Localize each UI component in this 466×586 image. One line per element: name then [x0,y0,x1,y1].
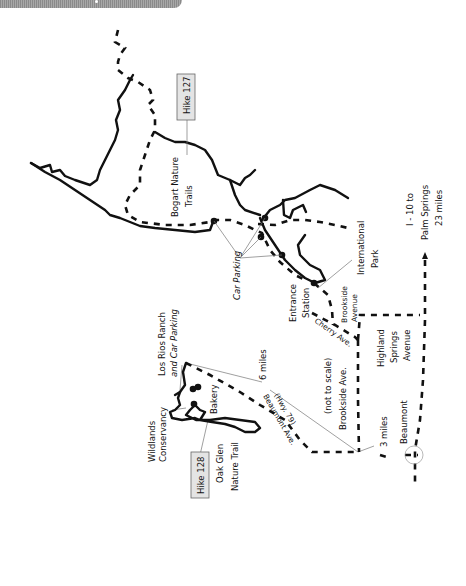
los-rios-label-2: and Car Parking [169,308,179,377]
oak-glen-label-2: Nature Trail [230,442,240,491]
arrow-icon [422,252,428,259]
brookside-avenue-label: Brookside [340,286,349,323]
map-labels: Bogart Nature Trails Car Parking Interna… [147,157,444,491]
hike-128-label: Hike 128 [191,452,209,498]
highland-springs-label-3: Avenue [402,329,412,361]
brookside-ave-label: Brookside Ave. [338,367,348,430]
brookside-avenue-label-2: Avenue [350,294,359,322]
bakery-label: Bakery [209,385,219,414]
highland-springs-label: Highland [376,329,386,367]
i10-label-2: Palm Springs [420,184,430,240]
entrance-station-label-2: Station [301,288,311,318]
i10-label: I - 10 to [405,193,415,226]
trail-map: Hike 127 Hike 128 Bogart Nature Trails C… [0,0,466,586]
beaumont-label: Beaumont [399,399,409,444]
bogart-label-2: Trails [184,185,194,208]
wildlands-label-2: Conservancy [158,407,168,462]
six-miles-label: 6 miles [258,349,268,380]
svg-text:Hike 127: Hike 127 [182,76,192,114]
wildlands-label: Wildlands [147,420,157,462]
svg-text:Hike 128: Hike 128 [196,456,206,494]
bogart-label: Bogart Nature [170,157,180,217]
three-miles-label: 3 miles [379,416,389,447]
los-rios-label: Los Rios Ranch [157,312,167,376]
international-park-label: International [356,221,366,275]
bogart-road [115,30,348,280]
car-parking-label: Car Parking [232,250,242,300]
oak-glen-label: Oak Glen [215,444,225,483]
i10-label-3: 23 miles [434,189,444,226]
highland-springs-label-2: Springs [389,331,399,363]
hike-127-label: Hike 127 [177,74,195,120]
entrance-station-label: Entrance [288,284,298,322]
international-park-label-2: Park [370,250,380,268]
not-to-scale-label: (not to scale) [323,358,333,414]
